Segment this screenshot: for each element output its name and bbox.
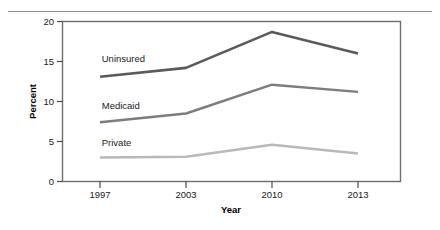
x-axis-ticks — [100, 182, 358, 189]
y-axis-title: Percent — [27, 83, 38, 119]
y-axis-tick-labels: 20 15 10 5 0 — [43, 16, 54, 187]
y-tick-label-20: 20 — [43, 16, 54, 27]
x-tick-label-1997: 1997 — [89, 189, 110, 200]
y-axis-ticks — [57, 22, 63, 182]
x-tick-label-2010: 2010 — [261, 189, 282, 200]
line-chart-canvas: 20 15 10 5 0 1997 2003 2010 2013 — [0, 0, 440, 230]
y-tick-label-15: 15 — [43, 56, 54, 67]
x-axis-title: Year — [221, 204, 241, 215]
series-label-medicaid: Medicaid — [102, 100, 140, 111]
x-axis-tick-labels: 1997 2003 2010 2013 — [89, 189, 368, 200]
x-tick-label-2013: 2013 — [347, 189, 368, 200]
series-label-private: Private — [102, 137, 132, 148]
series-label-uninsured: Uninsured — [102, 53, 145, 64]
y-tick-label-0: 0 — [49, 176, 54, 187]
x-tick-label-2003: 2003 — [175, 189, 196, 200]
y-tick-label-5: 5 — [49, 136, 54, 147]
y-tick-label-10: 10 — [43, 96, 54, 107]
chart-figure: 20 15 10 5 0 1997 2003 2010 2013 — [0, 0, 440, 230]
